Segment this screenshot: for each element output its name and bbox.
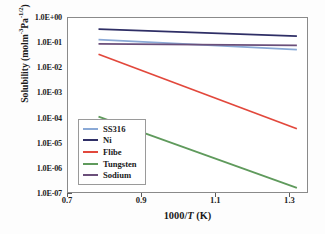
x-axis-title-suffix: (K): [194, 210, 212, 221]
legend-color-swatch: [83, 163, 98, 165]
legend-item[interactable]: Tungsten: [83, 158, 137, 170]
y-axis-tick-label: 1.0E-05: [37, 138, 62, 147]
y-axis-tick-label: 1.0E-07: [37, 189, 62, 198]
y-axis-tick-label: 1.0E-06: [37, 163, 62, 172]
x-axis-tick-label: 1.3: [284, 195, 295, 205]
legend-color-swatch: [83, 151, 98, 153]
legend-item[interactable]: Sodium: [83, 169, 137, 181]
y-axis-tick-label: 1.0E+00: [35, 13, 62, 22]
y-axis-tick-label: 1.0E-01: [37, 38, 62, 47]
x-axis-tick-label: 0.9: [136, 195, 147, 205]
x-axis-tick-label: 1.1: [210, 195, 221, 205]
solubility-chart-figure: 1.0E+001.0E-011.0E-021.0E-031.0E-041.0E-…: [0, 0, 325, 234]
legend-item-label: Flibe: [103, 147, 122, 157]
legend-item-label: Tungsten: [103, 159, 137, 169]
x-axis-title-prefix: 1000/: [164, 210, 188, 221]
x-axis-tick-label: 0.7: [62, 195, 73, 205]
y-axis-tick-label: 1.0E-02: [37, 63, 62, 72]
legend-item[interactable]: Ni: [83, 135, 137, 147]
x-axis-title: 1000/T (K): [67, 210, 308, 221]
data-series-line-sodium: [99, 44, 297, 46]
y-axis-tick-label: 1.0E-03: [37, 88, 62, 97]
data-series-line-flibe: [99, 54, 297, 128]
y-axis-title-text: Solubility (molm-3Pa-1/2): [19, 4, 30, 103]
legend-item-label: SS316: [103, 124, 125, 134]
legend-color-swatch: [83, 174, 98, 176]
data-series-line-ni: [99, 29, 297, 36]
y-axis-tick-label: 1.0E-04: [37, 113, 62, 122]
legend-color-swatch: [83, 139, 98, 141]
chart-legend[interactable]: SS316NiFlibeTungstenSodium: [78, 119, 146, 185]
y-axis-tick-label-group: 1.0E+001.0E-011.0E-021.0E-031.0E-041.0E-…: [0, 17, 62, 193]
y-axis-title: Solubility (molm-3Pa-1/2): [19, 0, 30, 144]
legend-item-label: Sodium: [103, 170, 131, 180]
legend-item-label: Ni: [103, 135, 112, 145]
legend-item[interactable]: Flibe: [83, 146, 137, 158]
legend-color-swatch: [83, 128, 98, 130]
legend-item[interactable]: SS316: [83, 123, 137, 135]
